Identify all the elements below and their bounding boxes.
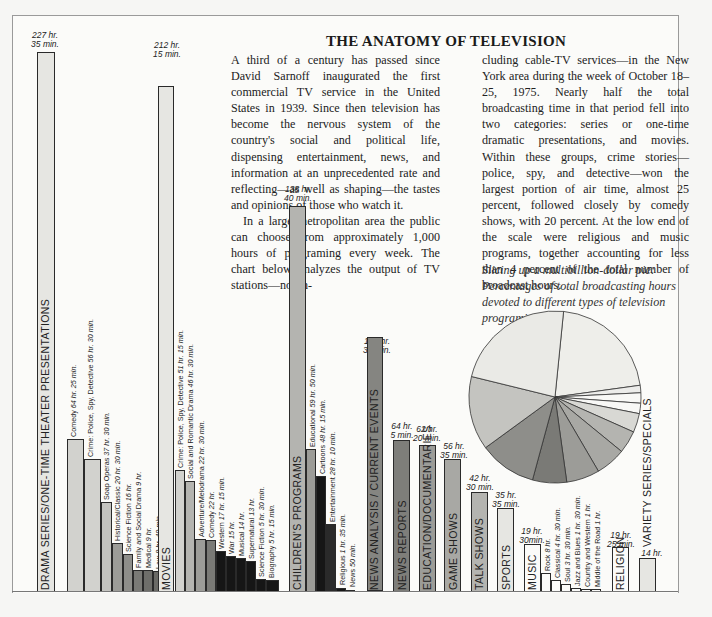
category-label-drama: DRAMA SERIES/ONE-TIME THEATER PRESENTATI… xyxy=(39,299,51,590)
subbar-children-educational xyxy=(306,449,316,592)
bar-variety xyxy=(639,558,656,592)
subbar-movies-musical xyxy=(236,558,246,592)
chart-baseline xyxy=(12,591,678,592)
article-column-1: A third of a century has passed since Da… xyxy=(231,52,440,293)
value-label-sports: 35 hr.35 min. xyxy=(490,491,522,509)
subbar-movies-crime xyxy=(175,470,185,592)
sublabel-drama-family: Family and Social Drama 9 hr. xyxy=(134,472,143,568)
subbar-movies-adventure xyxy=(195,539,206,592)
pie-chart xyxy=(467,309,643,485)
subbar-children-cartoons xyxy=(316,476,326,592)
page-title: THE ANATOMY OF TELEVISION xyxy=(326,33,566,50)
sublabel-movies-crime: Crime: Police, Spy, Detective 51 hr. 15 … xyxy=(176,330,185,468)
subbar-drama-family xyxy=(133,570,143,592)
sublabel-drama-comedy: Comedy 64 hr. 25 min. xyxy=(69,365,78,437)
paragraph-3: cluding cable-TV services—in the New Yor… xyxy=(482,52,689,293)
subbar-movies-supernatural xyxy=(246,561,256,592)
subbar-children-entertainment xyxy=(326,524,336,592)
sublabel-drama-crime: Crime: Police, Spy, Detective 56 hr. 30 … xyxy=(86,319,95,457)
sublabel-drama-medical: Medical 9 hr. xyxy=(144,527,153,568)
value-label-variety: 14 hr. xyxy=(636,549,668,558)
subbar-movies-social xyxy=(185,481,195,592)
sublabel-children-educational: Educational 59 hr. 50 min. xyxy=(308,364,317,447)
sublabel-children-religious: Religious 1 hr. 35 min. xyxy=(338,514,347,585)
category-label-religion: RELIGION xyxy=(614,537,626,590)
sublabel-movies-scifi: Science Fiction 5 hr. 30 min. xyxy=(257,487,266,577)
sublabel-movies-comedy: Comedy 22 hr. xyxy=(207,491,216,538)
subbar-drama-historical xyxy=(112,543,123,592)
sublabel-music-jazz: Jazz and Blues 1 hr. 30 min. xyxy=(573,496,582,586)
sublabel-children-news: News 50 min. xyxy=(348,543,357,587)
sublabel-movies-western: Western 17 hr. 15 min. xyxy=(217,477,226,549)
category-label-sports: SPORTS xyxy=(500,545,512,590)
category-label-game: GAME SHOWS xyxy=(447,512,459,590)
sublabel-drama-soap: Soap Operas 37 hr. 30 min. xyxy=(102,412,111,500)
value-label-drama: 227 hr.35 min. xyxy=(28,31,62,49)
subbar-drama-medical xyxy=(143,570,153,592)
sublabel-music-classical: Classical 4 hr. 30 min. xyxy=(553,508,562,578)
sublabel-music-country: Country and Western 1 hr. xyxy=(583,503,592,587)
value-label-children: 138 hr.40 min. xyxy=(281,185,315,203)
category-label-talk: TALK SHOWS xyxy=(473,518,485,590)
sublabel-music-rock: Rock 8 hr. xyxy=(543,538,552,571)
sublabel-children-cartoons: Cartoons 48 hr. 15 min. xyxy=(318,399,327,474)
article-column-2: cluding cable-TV services—in the New Yor… xyxy=(482,52,689,293)
category-label-newsreports: NEWS REPORTS xyxy=(396,500,408,590)
subbar-drama-scifi xyxy=(123,554,133,592)
sublabel-movies-social: Social and Romantic Drama 46 hr. 30 min. xyxy=(186,344,195,479)
category-label-music: MUSIC xyxy=(526,554,538,590)
subbar-music-rock xyxy=(541,573,551,592)
category-label-children: CHILDREN'S PROGRAMS xyxy=(291,456,303,590)
category-label-movies: MOVIES xyxy=(160,547,172,590)
paragraph-1: A third of a century has passed since Da… xyxy=(231,52,440,213)
sublabel-movies-musical: Musical 14 hr. xyxy=(237,512,246,557)
value-label-movies: 212 hr.15 min. xyxy=(150,41,184,59)
sublabel-movies-war: War 15 hr. xyxy=(227,521,236,554)
subbar-movies-war xyxy=(226,556,236,592)
subbar-drama-comedy xyxy=(67,439,84,592)
sublabel-drama-historical: Historical/Classic 20 hr. 30 min. xyxy=(113,441,122,541)
category-label-newsanalysis: NEWS ANALYSIS / CURRENT EVENTS xyxy=(368,389,380,590)
subbar-movies-comedy xyxy=(206,540,216,592)
value-label-game: 56 hr.35 min. xyxy=(438,442,470,460)
sublabel-music-soul: Soul 3 hr. 30 min. xyxy=(563,526,572,582)
bar-movies xyxy=(158,86,174,592)
sublabel-movies-adventure: Adventure/Melodrama 22 hr. 30 min. xyxy=(197,421,206,537)
sublabel-movies-biography: Biography 5 hr. 15 min. xyxy=(267,504,276,578)
sublabel-drama-scifi: Science Fiction 16 hr. xyxy=(124,483,133,552)
pie-slice xyxy=(555,311,640,397)
subbar-movies-western xyxy=(216,551,226,592)
subbar-drama-soap xyxy=(101,502,112,592)
subbar-drama-crime xyxy=(84,459,101,592)
sublabel-children-entertainment: Entertainment 28 hr. 10 min. xyxy=(328,432,337,522)
category-label-education: EDUCATION/DOCUMENTARIES xyxy=(421,425,433,590)
sublabel-music-middle: Middle of the Road 1 hr. xyxy=(593,511,602,587)
sublabel-movies-supernatural: Supernatural 13 hr. xyxy=(247,498,256,559)
paragraph-2: In a large metropolitan area the public … xyxy=(231,213,440,293)
